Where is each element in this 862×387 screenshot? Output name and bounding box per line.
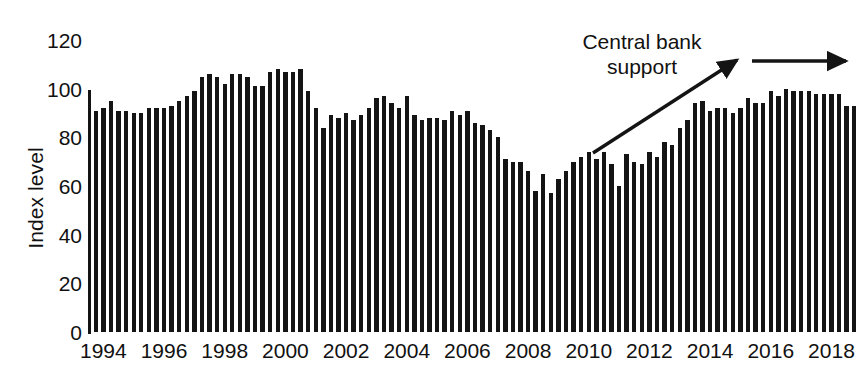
bar: [488, 130, 492, 332]
bar: [276, 69, 280, 332]
bar: [321, 128, 325, 332]
x-tick-label: 1994: [80, 340, 127, 361]
y-tick-label: 40: [6, 224, 82, 245]
bar: [132, 113, 136, 332]
bar: [685, 120, 689, 332]
bar-series: [88, 32, 854, 332]
bar: [169, 106, 173, 332]
y-tick-label: 60: [6, 176, 82, 197]
bar: [700, 101, 704, 332]
bar: [602, 152, 606, 332]
bar: [609, 164, 613, 332]
y-tick-label: 20: [6, 273, 82, 294]
bar: [374, 98, 378, 332]
x-tick-label: 2006: [444, 340, 491, 361]
bar: [427, 118, 431, 332]
bar: [678, 128, 682, 332]
bar: [116, 111, 120, 332]
bar: [147, 108, 151, 332]
x-tick-label: 2008: [505, 340, 552, 361]
bar: [571, 162, 575, 332]
bar: [496, 137, 500, 332]
bar: [655, 157, 659, 332]
bar: [670, 145, 674, 332]
bar: [298, 69, 302, 332]
bar: [640, 164, 644, 332]
bar: [784, 89, 788, 332]
bar: [526, 171, 530, 332]
bar: [708, 111, 712, 332]
bar: [556, 179, 560, 332]
bar: [442, 120, 446, 332]
bar: [799, 91, 803, 332]
x-axis-tick-labels: 1994199619982000200220042006200820102012…: [88, 340, 862, 374]
bar: [450, 111, 454, 332]
bar: [761, 103, 765, 332]
bar: [405, 96, 409, 332]
y-axis-tick-labels: 020406080100120: [0, 0, 82, 387]
x-tick-label: 2014: [687, 340, 734, 361]
bar: [314, 108, 318, 332]
bar: [344, 113, 348, 332]
bar: [215, 77, 219, 333]
x-tick-label: 2010: [565, 340, 612, 361]
bar: [200, 77, 204, 333]
bar: [723, 108, 727, 332]
bar: [94, 111, 98, 332]
bar: [420, 120, 424, 332]
bar: [776, 96, 780, 332]
bar: [844, 106, 848, 332]
bar: [518, 162, 522, 332]
bar: [769, 91, 773, 332]
x-tick-label: 1996: [141, 340, 188, 361]
bar: [662, 142, 666, 332]
bar: [124, 111, 128, 332]
bar: [367, 108, 371, 332]
bar: [480, 125, 484, 332]
bar: [253, 86, 257, 332]
bar: [101, 108, 105, 332]
y-tick-label: 120: [6, 30, 82, 51]
bar: [162, 108, 166, 332]
bar: [268, 72, 272, 332]
y-tick-label: 100: [6, 78, 82, 99]
bar: [693, 103, 697, 332]
bar: [351, 120, 355, 332]
bar: [306, 91, 310, 332]
bar: [837, 94, 841, 332]
bar: [389, 103, 393, 332]
x-tick-label: 2002: [323, 340, 370, 361]
bar: [458, 115, 462, 332]
bar: [260, 86, 264, 332]
bar: [192, 91, 196, 332]
bar: [336, 118, 340, 332]
bar: [753, 103, 757, 332]
bar: [511, 162, 515, 332]
bar: [564, 171, 568, 332]
bar: [647, 152, 651, 332]
bar: [139, 113, 143, 332]
bar: [283, 72, 287, 332]
bar: [829, 94, 833, 332]
bar: [715, 108, 719, 332]
bar: [223, 84, 227, 332]
bar: [329, 115, 333, 332]
bar: [852, 106, 856, 332]
bar: [177, 101, 181, 332]
bar: [814, 94, 818, 332]
x-tick-label: 2004: [383, 340, 430, 361]
bar: [245, 77, 249, 333]
bar: [822, 94, 826, 332]
bar: [382, 96, 386, 332]
bar: [746, 98, 750, 332]
plot-area: [88, 32, 854, 334]
bar: [185, 96, 189, 332]
y-tick-label: 0: [6, 322, 82, 343]
bar: [503, 159, 507, 332]
bar: [791, 91, 795, 332]
bar: [533, 191, 537, 332]
bar: [207, 74, 211, 332]
bar: [238, 74, 242, 332]
bar: [624, 154, 628, 332]
bar: [632, 162, 636, 332]
